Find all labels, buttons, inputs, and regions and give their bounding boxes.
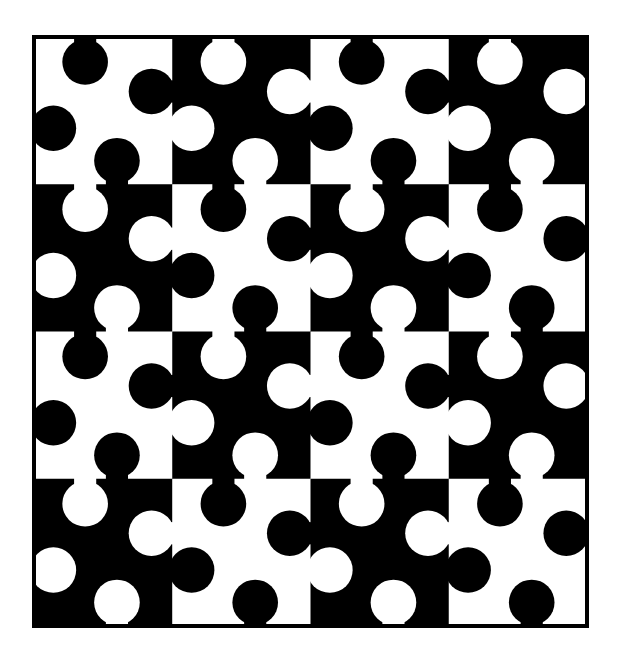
knob-bottom (232, 138, 278, 184)
knob-top (339, 39, 385, 85)
knob-right (405, 69, 451, 115)
knob-right (405, 363, 451, 409)
knob-right (267, 363, 313, 409)
knob-top (477, 39, 523, 85)
knob-bottom (94, 580, 140, 626)
knob-top (201, 334, 247, 380)
knob-bottom (371, 138, 417, 184)
knob-top (201, 186, 247, 232)
knob-right (543, 510, 589, 556)
knob-right (267, 510, 313, 556)
knob-top (62, 334, 108, 380)
knob-left (307, 253, 353, 299)
knob-bottom (509, 580, 555, 626)
knob-left (169, 105, 215, 151)
knob-bottom (509, 138, 555, 184)
knob-left (31, 400, 77, 446)
tile-grid (31, 35, 590, 628)
knob-top (477, 481, 523, 527)
knob-left (31, 253, 77, 299)
knob-left (307, 547, 353, 593)
knob-left (445, 105, 491, 151)
knob-top (339, 481, 385, 527)
knob-top (201, 39, 247, 85)
interlocking-tile-pattern (0, 0, 621, 660)
knob-bottom (94, 285, 140, 331)
knob-bottom (94, 432, 140, 478)
knob-bottom (509, 285, 555, 331)
knob-right (129, 363, 175, 409)
knob-bottom (94, 138, 140, 184)
knob-left (169, 400, 215, 446)
knob-bottom (371, 432, 417, 478)
knob-right (405, 216, 451, 262)
knob-right (267, 216, 313, 262)
knob-right (129, 216, 175, 262)
knob-bottom (371, 580, 417, 626)
knob-left (169, 253, 215, 299)
knob-left (31, 105, 77, 151)
knob-right (129, 510, 175, 556)
knob-left (31, 547, 77, 593)
knob-left (307, 400, 353, 446)
knob-top (201, 481, 247, 527)
knob-left (445, 400, 491, 446)
knob-top (62, 39, 108, 85)
knob-top (477, 334, 523, 380)
knob-bottom (232, 285, 278, 331)
knob-top (339, 186, 385, 232)
knob-top (62, 481, 108, 527)
knob-right (543, 363, 589, 409)
knob-left (445, 253, 491, 299)
knob-left (445, 547, 491, 593)
knob-left (307, 105, 353, 151)
knob-bottom (232, 432, 278, 478)
knob-right (543, 69, 589, 115)
knob-top (339, 334, 385, 380)
knob-bottom (371, 285, 417, 331)
knob-bottom (509, 432, 555, 478)
knob-left (169, 547, 215, 593)
knob-right (543, 216, 589, 262)
knob-right (405, 510, 451, 556)
knob-top (62, 186, 108, 232)
knob-top (477, 186, 523, 232)
knob-bottom (232, 580, 278, 626)
knob-right (267, 69, 313, 115)
knob-right (129, 69, 175, 115)
